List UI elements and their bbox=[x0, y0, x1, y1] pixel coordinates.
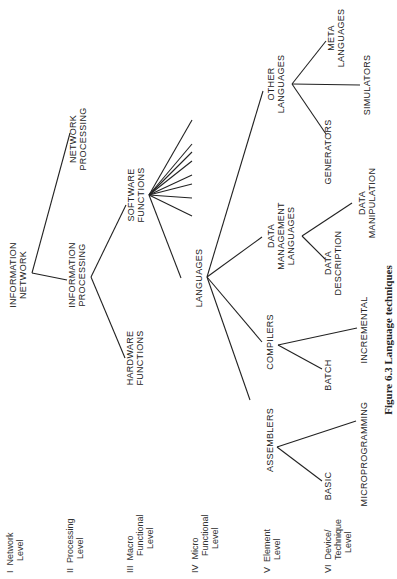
edge-compilers-batch bbox=[278, 345, 322, 369]
svg-text:DATAMANIPULATION: DATAMANIPULATION bbox=[357, 168, 377, 238]
edge-infonet-infoproc bbox=[32, 273, 67, 280]
svg-text:IVMicroFunctionalLevel: IVMicroFunctionalLevel bbox=[190, 514, 220, 573]
svg-text:DATAMANAGEMENTLANGUAGES: DATAMANAGEMENTLANGUAGES bbox=[266, 202, 296, 270]
svg-text:BASIC: BASIC bbox=[323, 472, 333, 501]
node-data-description: DATADESCRIPTION bbox=[323, 231, 343, 296]
svg-text:VIDevice/TechniqueLevel: VIDevice/TechniqueLevel bbox=[323, 519, 353, 573]
svg-text:LANGUAGES: LANGUAGES bbox=[194, 249, 204, 308]
node-languages: LANGUAGES bbox=[194, 249, 204, 308]
level-label-6: VIDevice/TechniqueLevel bbox=[323, 519, 353, 573]
node-meta-languages: METALANGUAGES bbox=[326, 9, 346, 68]
node-information-network: INFORMATIONNETWORK bbox=[8, 242, 28, 308]
edge-infoproc-hardware bbox=[91, 277, 125, 358]
edge-dml-description bbox=[302, 236, 325, 259]
svg-text:INetworkLevel: INetworkLevel bbox=[5, 532, 25, 573]
node-other-languages: OTHERLANGUAGES bbox=[266, 55, 286, 114]
svg-text:VElementLevel: VElementLevel bbox=[262, 528, 282, 573]
svg-text:HARDWAREFUNCTIONS: HARDWAREFUNCTIONS bbox=[125, 330, 145, 385]
node-information-processing: INFORMATIONPROCESSING bbox=[67, 242, 87, 308]
figure-caption: Figure 6.3 Language techniques bbox=[382, 265, 394, 415]
svg-text:NETWORKPROCESSING: NETWORKPROCESSING bbox=[68, 107, 88, 170]
level-label-1: INetworkLevel bbox=[5, 532, 25, 573]
edge-software-branch bbox=[149, 120, 192, 195]
level-label-2: IIProcessingLevel bbox=[65, 518, 85, 573]
node-incremental: INCREMENTAL bbox=[359, 296, 369, 363]
svg-text:DATADESCRIPTION: DATADESCRIPTION bbox=[323, 231, 343, 296]
edge-languages-dml bbox=[207, 237, 262, 277]
node-microprogramming: MICROPROGRAMMING bbox=[359, 402, 369, 507]
edge-assemblers-basic bbox=[277, 447, 322, 481]
node-batch: BATCH bbox=[323, 359, 333, 390]
node-software-functions: SOFTWAREFUNCTIONS bbox=[126, 167, 146, 222]
edge-languages-compilers bbox=[207, 277, 262, 342]
edge-other-generators bbox=[292, 84, 326, 134]
svg-text:ASSEMBLERS: ASSEMBLERS bbox=[265, 408, 275, 472]
svg-text:GENERATORS: GENERATORS bbox=[323, 119, 333, 184]
svg-text:INFORMATIONPROCESSING: INFORMATIONPROCESSING bbox=[67, 242, 87, 308]
svg-text:METALANGUAGES: METALANGUAGES bbox=[326, 9, 346, 68]
svg-text:Figure 6.3 Language techniques: Figure 6.3 Language techniques bbox=[382, 265, 394, 415]
node-data-management-languages: DATAMANAGEMENTLANGUAGES bbox=[266, 202, 296, 270]
edge-languages-assemblers bbox=[207, 277, 250, 400]
node-basic: BASIC bbox=[323, 472, 333, 501]
level-label-5: VElementLevel bbox=[262, 528, 282, 573]
level-label-4: IVMicroFunctionalLevel bbox=[190, 514, 220, 573]
node-assemblers: ASSEMBLERS bbox=[265, 408, 275, 472]
svg-text:MICROPROGRAMMING: MICROPROGRAMMING bbox=[359, 402, 369, 507]
node-data-manipulation: DATAMANIPULATION bbox=[357, 168, 377, 238]
svg-text:INCREMENTAL: INCREMENTAL bbox=[359, 296, 369, 363]
edge-compilers-incremental bbox=[278, 328, 357, 345]
svg-text:IIIMacroFunctionalLevel: IIIMacroFunctionalLevel bbox=[125, 514, 155, 573]
node-compilers: COMPILERS bbox=[265, 314, 275, 370]
edge-dml-manipulation bbox=[302, 203, 352, 236]
svg-text:COMPILERS: COMPILERS bbox=[265, 314, 275, 370]
edge-infonet-netproc bbox=[32, 133, 70, 273]
edge-languages-other bbox=[207, 91, 263, 277]
node-network-processing: NETWORKPROCESSING bbox=[68, 107, 88, 170]
edge-other-simulators bbox=[292, 84, 360, 85]
edge-infoproc-software bbox=[91, 205, 126, 277]
svg-text:INFORMATIONNETWORK: INFORMATIONNETWORK bbox=[8, 242, 28, 308]
svg-text:BATCH: BATCH bbox=[323, 359, 333, 390]
node-hardware-functions: HARDWAREFUNCTIONS bbox=[125, 330, 145, 385]
svg-text:SOFTWAREFUNCTIONS: SOFTWAREFUNCTIONS bbox=[126, 167, 146, 222]
svg-text:OTHERLANGUAGES: OTHERLANGUAGES bbox=[266, 55, 286, 114]
svg-text:IIProcessingLevel: IIProcessingLevel bbox=[65, 518, 85, 573]
node-simulators: SIMULATORS bbox=[362, 55, 372, 116]
edge-software-languages bbox=[149, 195, 181, 278]
level-label-3: IIIMacroFunctionalLevel bbox=[125, 514, 155, 573]
edge-software-branch bbox=[149, 144, 192, 195]
node-generators: GENERATORS bbox=[323, 119, 333, 184]
hierarchy-diagram: INFORMATIONNETWORK NETWORKPROCESSING INF… bbox=[0, 0, 397, 579]
edge-other-meta bbox=[292, 41, 326, 84]
svg-text:SIMULATORS: SIMULATORS bbox=[362, 55, 372, 116]
edge-assemblers-microprogramming bbox=[277, 421, 356, 447]
